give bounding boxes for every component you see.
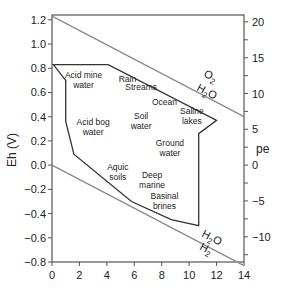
x-tick-label: 12 <box>210 269 222 281</box>
chart-svg: 1.21.00.80.60.40.20.0−0.2−0.4−0.6−0.8 20… <box>0 0 290 297</box>
o2-h2o-line <box>52 16 244 117</box>
plot-frame <box>52 15 244 262</box>
environment-label: Deepmarine <box>139 170 165 190</box>
pe-tick-label: 20 <box>252 16 264 28</box>
x-tick-label: 10 <box>183 269 195 281</box>
environment-label: Groundwater <box>156 138 185 158</box>
environment-label-line: brines <box>153 201 176 211</box>
environment-label: Acid bogwater <box>77 117 110 137</box>
environment-label-line: Streams <box>125 82 157 92</box>
y-tick-label: 0.0 <box>31 159 46 171</box>
environment-label: Ocean <box>152 97 177 107</box>
y-tick-label: −0.8 <box>24 256 46 268</box>
environment-label-line: Ocean <box>152 97 177 107</box>
data-series <box>52 16 244 265</box>
environment-label-line: lakes <box>182 116 202 126</box>
environment-label-line: Saline <box>180 106 204 116</box>
x-tick-label: 14 <box>238 269 250 281</box>
y-tick-label: −0.2 <box>24 183 46 195</box>
environment-label: Soilwater <box>130 111 152 131</box>
environment-label: Streams <box>125 82 157 92</box>
y-tick-label: 0.4 <box>31 111 46 123</box>
x-tick-label: 8 <box>159 269 165 281</box>
y-tick-label: −0.6 <box>24 232 46 244</box>
pe-tick-label: −5 <box>252 195 265 207</box>
environment-label: Aquicsoils <box>107 162 129 182</box>
environment-label-line: Acid bog <box>77 117 110 127</box>
environment-label: Salinelakes <box>180 106 204 126</box>
y-tick-label: 0.2 <box>31 135 46 147</box>
bottom-axis-ph: 02468101214 <box>49 262 250 281</box>
right-axis-title: pe <box>256 142 270 156</box>
right-axis-pe: 20151050−5−10 <box>244 16 271 255</box>
environment-label-line: water <box>82 127 104 137</box>
environment-label-line: Aquic <box>107 162 129 172</box>
environment-label: Basinalbrines <box>151 191 179 211</box>
environment-label-line: Soil <box>134 111 148 121</box>
x-tick-label: 6 <box>131 269 137 281</box>
y-tick-label: −0.4 <box>24 208 46 220</box>
left-axis-eh: 1.21.00.80.60.40.20.0−0.2−0.4−0.6−0.8 <box>24 14 52 268</box>
plot-border <box>52 15 244 262</box>
pe-tick-label: −10 <box>252 231 271 243</box>
y-tick-label: 0.8 <box>31 62 46 74</box>
environment-label-line: Deep <box>142 170 163 180</box>
eh-ph-diagram: 1.21.00.80.60.40.20.0−0.2−0.4−0.6−0.8 20… <box>0 0 290 297</box>
environment-label-line: Ground <box>156 138 185 148</box>
y-tick-label: 1.2 <box>31 14 46 26</box>
environment-label-line: water <box>159 148 181 158</box>
x-tick-label: 0 <box>49 269 55 281</box>
y-tick-label: 0.6 <box>31 86 46 98</box>
pe-tick-label: 5 <box>252 123 258 135</box>
pe-tick-label: 10 <box>252 88 264 100</box>
environment-label-line: Acid mine <box>65 70 103 80</box>
environment-label-line: water <box>72 80 94 90</box>
x-tick-label: 4 <box>104 269 110 281</box>
environment-labels: Acid minewaterRainStreamsOceanSalinelake… <box>65 70 204 211</box>
y-tick-label: 1.0 <box>31 38 46 50</box>
pe-tick-label: 15 <box>252 52 264 64</box>
environment-label: Acid minewater <box>65 70 103 90</box>
pe-tick-label: 0 <box>252 159 258 171</box>
environment-label-line: soils <box>109 172 126 182</box>
h2o-upper-label: H2O <box>194 81 220 104</box>
environment-label-line: marine <box>139 180 165 190</box>
environment-label-line: water <box>130 121 152 131</box>
x-tick-label: 2 <box>76 269 82 281</box>
y-axis-title: Eh (V) <box>5 133 19 167</box>
environment-label-line: Basinal <box>151 191 179 201</box>
